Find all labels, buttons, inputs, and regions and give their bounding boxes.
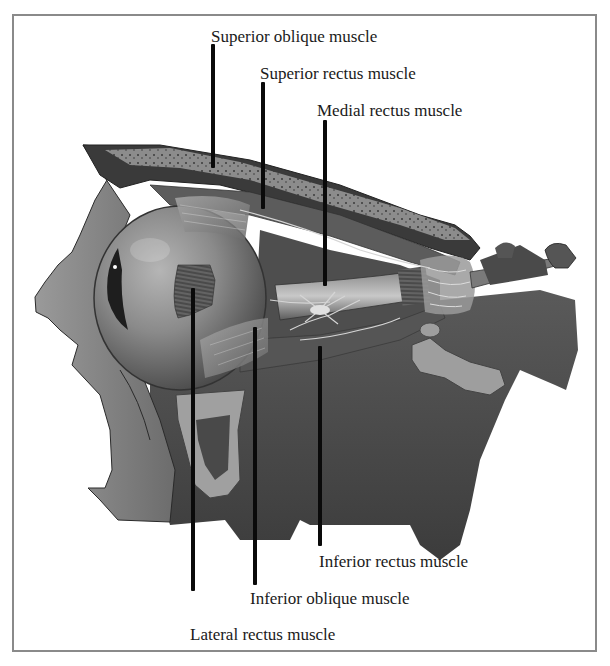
leader-medial-rectus <box>323 120 327 286</box>
leader-superior-rectus <box>261 82 265 209</box>
common-tendinous-ring <box>420 255 475 314</box>
label-medial-rectus-muscle: Medial rectus muscle <box>317 102 462 119</box>
bone-knob <box>495 242 515 258</box>
eyeball-highlight <box>130 238 170 262</box>
sphenoid-small-section <box>420 323 440 337</box>
eye-anatomy-illustration <box>0 0 610 666</box>
leader-lateral-rectus <box>191 288 195 591</box>
label-superior-rectus-muscle: Superior rectus muscle <box>260 65 416 82</box>
leader-inferior-rectus <box>318 346 322 546</box>
label-lateral-rectus-muscle: Lateral rectus muscle <box>190 626 335 643</box>
label-superior-oblique-muscle: Superior oblique muscle <box>211 28 377 45</box>
ciliary-ganglion <box>310 305 330 315</box>
label-inferior-rectus-muscle: Inferior rectus muscle <box>319 553 468 570</box>
sphenoid-process <box>480 245 548 285</box>
leader-inferior-oblique <box>253 327 257 585</box>
leader-superior-oblique <box>211 44 215 168</box>
label-inferior-oblique-muscle: Inferior oblique muscle <box>250 590 410 607</box>
